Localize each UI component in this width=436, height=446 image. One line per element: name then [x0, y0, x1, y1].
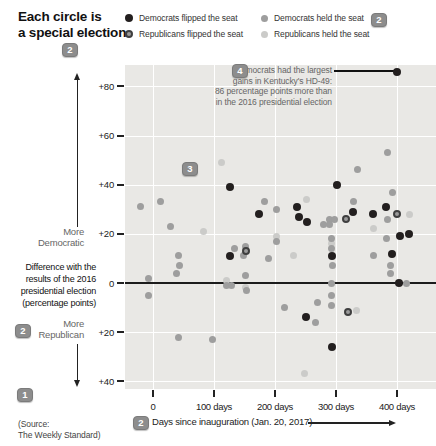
data-point-dem-flip — [333, 181, 341, 189]
data-point-dem-held — [167, 223, 174, 230]
data-point-dem-held — [231, 245, 238, 252]
data-point-dem-held — [387, 270, 394, 277]
data-point-dem-held — [328, 280, 335, 287]
data-point-dem-held — [314, 299, 321, 306]
data-point-dem-held — [281, 304, 288, 311]
zero-baseline — [125, 282, 436, 284]
data-point-dem-held — [261, 198, 268, 205]
down-arrowhead-icon — [74, 380, 80, 387]
marker-badge-1: 1 — [17, 388, 33, 402]
data-point-rep-flip — [344, 308, 352, 316]
legend-item-dem-held: Democrats held the seat — [261, 13, 364, 23]
data-point-dem-flip — [369, 210, 377, 218]
data-point-dem-held — [157, 198, 164, 205]
y-tick-label: +20 — [86, 228, 114, 239]
data-point-rep-held — [303, 196, 310, 203]
vertical-gridline — [153, 65, 154, 389]
data-point-dem-held — [403, 280, 410, 287]
data-point-dem-flip — [295, 213, 303, 221]
data-point-dem-held — [273, 238, 280, 245]
y-tick-mark — [117, 135, 124, 137]
data-point-dem-flip — [293, 203, 301, 211]
data-point-rep-held — [406, 211, 413, 218]
y-tick-mark — [117, 184, 124, 186]
y-tick-mark — [117, 85, 124, 87]
chart-canvas: Each circle is a special election Democr… — [0, 0, 436, 446]
data-point-dem-flip — [388, 250, 396, 258]
marker-badge-2: 2 — [15, 324, 31, 338]
x-tick-mark — [213, 390, 215, 397]
marker-badge-2: 2 — [133, 416, 149, 430]
legend-label: Democrats held the seat — [274, 13, 364, 23]
data-point-dem-flip — [255, 210, 263, 218]
chart-title-line1: Each circle is — [18, 9, 126, 25]
vertical-gridline — [336, 65, 337, 389]
data-point-rep-flip — [393, 210, 401, 218]
data-point-dem-held — [384, 149, 391, 156]
more-democratic-arrow — [77, 80, 79, 227]
right-arrowhead-icon — [389, 420, 396, 426]
callout-line2: gains in Kentucky's HD-49: — [162, 76, 332, 87]
legend-item-dem-flip: Democrats flipped the seat — [125, 13, 238, 23]
dem-held-dot-icon — [261, 15, 268, 22]
x-tick-mark — [274, 390, 276, 397]
y-tick-mark — [117, 233, 124, 235]
chart-title: Each circle is a special election — [18, 9, 126, 41]
data-point-dem-flip — [382, 203, 390, 211]
y-tick-label: 0 — [86, 278, 114, 289]
horizontal-gridline — [125, 381, 436, 382]
rep-flip-dot-icon — [125, 30, 133, 38]
data-point-dem-flip — [405, 230, 413, 238]
x-tick-label: 400 days — [367, 401, 427, 412]
dem-flip-dot-icon — [125, 14, 133, 22]
data-point-dem-flip — [226, 183, 234, 191]
data-point-dem-held — [175, 334, 182, 341]
data-point-dem-held — [243, 287, 250, 294]
data-point-dem-held — [389, 189, 396, 196]
data-point-dem-held — [175, 252, 182, 259]
more-democratic-line1: More — [18, 227, 84, 238]
data-point-dem-flip — [396, 232, 404, 240]
data-point-dem-held — [354, 166, 361, 173]
data-point-dem-held — [273, 206, 280, 213]
data-point-dem-held — [383, 235, 390, 242]
vertical-gridline — [397, 65, 398, 389]
horizontal-gridline — [125, 332, 436, 333]
legend-label: Republicans flipped the seat — [139, 29, 243, 39]
y-tick-label: +20 — [86, 327, 114, 338]
callout-line3: 86 percentage points more than — [162, 86, 332, 97]
y-tick-label: +60 — [86, 130, 114, 141]
legend-label: Democrats flipped the seat — [139, 13, 238, 23]
plot-area — [125, 65, 436, 389]
data-point-rep-held — [370, 225, 377, 232]
x-axis-arrow — [308, 422, 390, 424]
data-point-rep-held — [353, 307, 360, 314]
y-tick-mark — [117, 282, 124, 284]
marker-badge-4: 4 — [232, 64, 248, 78]
source-credit: (Source: The Weekly Standard) — [18, 419, 100, 440]
data-point-dem-held — [145, 292, 152, 299]
marker-badge-2: 2 — [62, 43, 78, 57]
data-point-rep-held — [218, 159, 225, 166]
data-point-rep-flip — [242, 247, 250, 255]
data-point-rep-held — [200, 228, 207, 235]
x-tick-label: 300 days — [306, 401, 366, 412]
callout-pointer-line — [334, 70, 394, 72]
data-point-dem-held — [228, 282, 235, 289]
data-point-dem-flip — [303, 218, 311, 226]
data-point-dem-held — [173, 270, 180, 277]
data-point-dem-held — [265, 255, 272, 262]
x-tick-label: 200 days — [245, 401, 305, 412]
data-point-rep-flip — [342, 215, 350, 223]
chart-title-line2: a special election — [18, 25, 126, 41]
x-axis-title: Days since inauguration (Jan. 20, 2017) — [152, 416, 312, 427]
source-line1: (Source: — [18, 419, 100, 430]
horizontal-gridline — [125, 185, 436, 186]
data-point-dem-flip — [302, 313, 310, 321]
horizontal-gridline — [125, 136, 436, 137]
data-point-dem-held — [328, 292, 335, 299]
y-tick-mark — [117, 331, 124, 333]
marker-badge-2: 2 — [371, 13, 387, 27]
y-tick-label: +40 — [86, 376, 114, 387]
legend-item-rep-flip: Republicans flipped the seat — [125, 29, 243, 39]
